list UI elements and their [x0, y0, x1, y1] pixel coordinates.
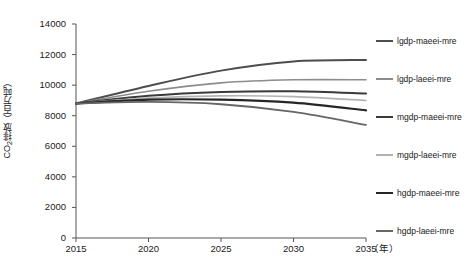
tick-marks: [72, 24, 366, 242]
y-tick-label: 6000: [22, 141, 66, 151]
chart-legend: lgdp-maeei-mrelgdp-laeei-mremgdp-maeei-m…: [376, 20, 466, 252]
y-tick-label: 12000: [22, 50, 66, 60]
legend-swatch-hgdp-laeei-mre: [376, 230, 393, 232]
y-tick-label: 0: [22, 233, 66, 243]
y-tick-label: 14000: [22, 19, 66, 29]
legend-label-hgdp-maeei-mre: hgdp-maeei-mre: [397, 188, 459, 198]
legend-label-lgdp-laeei-mre: lgdp-laeei-mre: [397, 74, 451, 84]
y-tick-label: 4000: [22, 172, 66, 182]
legend-item-hgdp-laeei-mre[interactable]: hgdp-laeei-mre: [376, 224, 454, 238]
y-tick-label: 10000: [22, 80, 66, 90]
series-line-lgdp-maeei-mre: [76, 60, 366, 104]
legend-label-lgdp-maeei-mre: lgdp-maeei-mre: [397, 36, 457, 46]
y-axis-title-unit: 排放（百万吨）: [2, 78, 12, 141]
legend-item-mgdp-laeei-mre[interactable]: mgdp-laeei-mre: [376, 148, 457, 162]
legend-swatch-lgdp-maeei-mre: [376, 40, 393, 42]
x-tick-label: 2020: [126, 243, 172, 254]
x-tick-label: 2025: [198, 243, 244, 254]
legend-item-lgdp-maeei-mre[interactable]: lgdp-maeei-mre: [376, 34, 457, 48]
legend-label-mgdp-laeei-mre: mgdp-laeei-mre: [397, 150, 457, 160]
legend-swatch-mgdp-laeei-mre: [376, 154, 393, 156]
legend-swatch-hgdp-maeei-mre: [376, 192, 393, 194]
y-tick-label: 2000: [22, 202, 66, 212]
axis-lines: [76, 24, 366, 238]
legend-label-hgdp-laeei-mre: hgdp-laeei-mre: [397, 226, 454, 236]
co2-emission-line-chart: CO2排放（百万吨） 02000400060008000100001200014…: [0, 0, 466, 273]
x-tick-label: 2030: [271, 243, 317, 254]
legend-item-mgdp-maeei-mre[interactable]: mgdp-maeei-mre: [376, 110, 462, 124]
y-tick-label: 8000: [22, 111, 66, 121]
x-tick-label: 2015: [53, 243, 99, 254]
y-axis-title-subscript: 2: [6, 141, 13, 145]
y-axis-title: CO2排放（百万吨）: [2, 78, 18, 158]
y-axis-title-text: CO: [2, 145, 12, 159]
legend-label-mgdp-maeei-mre: mgdp-maeei-mre: [397, 112, 462, 122]
legend-item-lgdp-laeei-mre[interactable]: lgdp-laeei-mre: [376, 72, 451, 86]
legend-swatch-lgdp-laeei-mre: [376, 78, 393, 80]
legend-swatch-mgdp-maeei-mre: [376, 116, 393, 118]
series-lines: [76, 60, 366, 125]
legend-item-hgdp-maeei-mre[interactable]: hgdp-maeei-mre: [376, 186, 459, 200]
